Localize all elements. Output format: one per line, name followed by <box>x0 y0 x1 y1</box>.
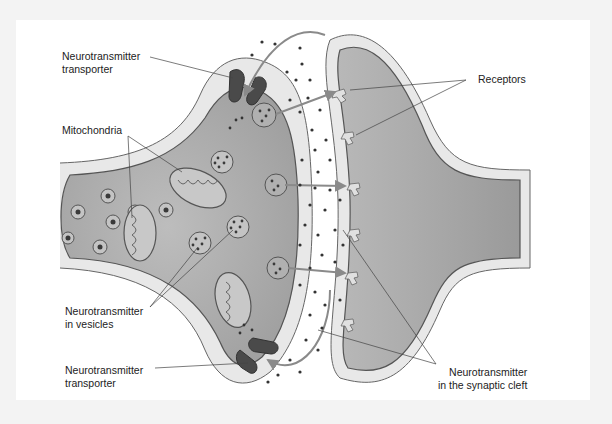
label-line: transporter <box>62 63 140 76</box>
postsynaptic-neuron <box>326 35 530 382</box>
label-synaptic-cleft: Neurotransmitter in the synaptic cleft <box>438 366 527 392</box>
label-receptors: Receptors <box>478 73 526 86</box>
label-line: Neurotransmitter <box>65 364 143 377</box>
label-line: in vesicles <box>65 318 143 331</box>
label-vesicles: Neurotransmitter in vesicles <box>65 305 143 331</box>
label-line: transporter <box>65 377 143 390</box>
label-line: Neurotransmitter <box>65 305 143 318</box>
label-mitochondria: Mitochondria <box>62 124 122 137</box>
presynaptic-terminal <box>60 58 312 383</box>
label-line: in the synaptic cleft <box>438 379 527 392</box>
label-line: Neurotransmitter <box>62 50 140 63</box>
label-line: Neurotransmitter <box>438 366 527 379</box>
label-transporter-top: Neurotransmitter transporter <box>62 50 140 76</box>
label-transporter-bottom: Neurotransmitter transporter <box>65 364 143 390</box>
